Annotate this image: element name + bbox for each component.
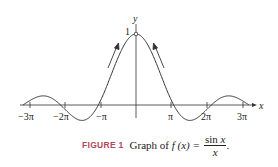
x-tick-label-m2pi: −2π (53, 111, 69, 122)
fraction-denominator: x (213, 146, 218, 158)
caption-period: . (226, 139, 229, 151)
fraction-numerator: sin x (204, 133, 226, 146)
x-tick-label-3pi: 3π (237, 111, 247, 122)
x-tick-label-2pi: 2π (201, 111, 211, 122)
x-tick-label-mpi: −π (96, 111, 107, 122)
y-axis-label: y (132, 13, 138, 24)
y-tick-1: 1 (125, 26, 130, 37)
caption-function: f (x) = (172, 139, 200, 151)
open-point-marker (134, 32, 138, 36)
caption-text: Graph of (130, 139, 169, 151)
x-axis-label: x (258, 100, 264, 111)
x-tick-label-pi: π (168, 111, 173, 122)
left-approach-arrow-icon (108, 43, 119, 68)
figure-caption: FIGURE 1 Graph of f (x) = sin x x . (82, 128, 229, 162)
x-tick-label-m3pi: −3π (18, 111, 34, 122)
x-axis-arrow-icon (252, 103, 257, 107)
right-approach-arrow-icon (153, 43, 164, 68)
caption-fraction: sin x x (204, 133, 226, 158)
figure-label: FIGURE 1 (82, 140, 124, 150)
